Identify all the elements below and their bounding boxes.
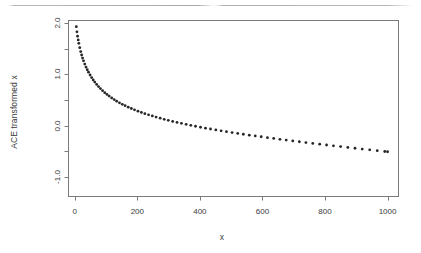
y-axis-tick-label: 0.0 [52, 120, 61, 131]
data-point [159, 117, 162, 120]
data-point [76, 30, 79, 33]
data-point [78, 46, 81, 49]
data-point [298, 140, 301, 143]
data-point [130, 107, 133, 110]
data-point [279, 138, 282, 141]
data-point [185, 123, 188, 126]
data-point [332, 144, 335, 147]
data-point [121, 103, 124, 106]
data-point [77, 42, 80, 45]
data-point [103, 91, 106, 94]
data-point [76, 35, 79, 38]
data-point [93, 81, 96, 84]
data-point [209, 128, 212, 131]
data-point [248, 134, 251, 137]
data-point [225, 130, 228, 133]
data-point [354, 147, 357, 150]
y-axis-tick-label: 2.0 [52, 18, 61, 29]
data-point [77, 39, 80, 42]
data-point [376, 149, 379, 152]
x-axis-tick-label: 0 [73, 206, 77, 215]
data-point [171, 120, 174, 123]
data-point [143, 112, 146, 115]
data-point [368, 148, 371, 151]
data-point [383, 150, 386, 153]
data-point [199, 126, 202, 129]
x-axis-tick-label: 1000 [379, 206, 397, 215]
x-axis-tick-label: 200 [131, 206, 144, 215]
data-point [231, 131, 234, 134]
data-point [214, 129, 217, 132]
x-axis-tick-label: 400 [193, 206, 206, 215]
data-point [285, 139, 288, 142]
data-point [151, 115, 154, 118]
data-point [90, 76, 93, 79]
data-point [266, 136, 269, 139]
y-axis-tick-label: 1.0 [52, 69, 61, 80]
plot-frame [69, 21, 399, 197]
data-point [99, 87, 102, 90]
data-point [86, 68, 89, 71]
data-point [101, 89, 104, 92]
data-point [260, 135, 263, 138]
data-point [346, 146, 349, 149]
data-point [147, 113, 150, 116]
data-point [204, 127, 207, 130]
data-point [189, 124, 192, 127]
data-point [361, 148, 364, 151]
data-point [82, 59, 85, 62]
plot-canvas [0, 0, 421, 253]
data-point-series [75, 25, 389, 153]
x-axis-title: x [220, 232, 224, 242]
scatter-plot: ACE transformed x x -1.00.01.02.0 020040… [0, 0, 421, 253]
data-point [291, 140, 294, 143]
data-point [124, 104, 127, 107]
data-point [118, 101, 121, 104]
y-axis-title: ACE transformed x [9, 75, 19, 149]
data-point [180, 122, 183, 125]
data-point [194, 125, 197, 128]
data-point [254, 135, 257, 138]
data-point [305, 141, 308, 144]
x-axis-ticks [76, 197, 389, 201]
data-point [127, 106, 130, 109]
data-point [325, 144, 328, 147]
data-point [242, 133, 245, 136]
data-point [163, 118, 166, 121]
data-point [318, 143, 321, 146]
data-point [75, 25, 78, 28]
data-point [81, 57, 84, 60]
data-point [87, 71, 90, 74]
data-point [108, 95, 111, 98]
data-point [83, 63, 86, 66]
y-axis-tick-label: -1.0 [52, 170, 61, 184]
y-axis-ticks [65, 24, 69, 178]
data-point [167, 119, 170, 122]
data-point [110, 97, 113, 100]
data-point [386, 150, 389, 153]
data-point [176, 121, 179, 124]
data-point [85, 66, 88, 69]
data-point [115, 100, 118, 103]
figure-root: ACE transformed x x -1.00.01.02.0 020040… [0, 0, 421, 253]
data-point [311, 142, 314, 145]
data-point [80, 54, 83, 57]
x-axis-tick-label: 800 [318, 206, 331, 215]
data-point [155, 116, 158, 119]
data-point [339, 145, 342, 148]
data-point [220, 129, 223, 132]
data-point [236, 132, 239, 135]
data-point [133, 108, 136, 111]
data-point [79, 50, 82, 53]
data-point [113, 98, 116, 101]
data-point [95, 83, 98, 86]
data-point [137, 110, 140, 113]
x-axis-tick-label: 600 [256, 206, 269, 215]
plot-box-border [69, 21, 399, 197]
data-point [140, 111, 143, 114]
data-point [272, 137, 275, 140]
data-point [89, 74, 92, 77]
